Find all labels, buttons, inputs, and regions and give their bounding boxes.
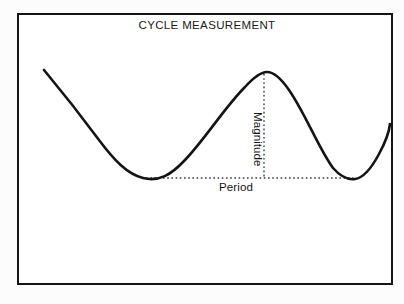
period-axis-label: Period [181, 181, 291, 193]
cycle-measurement-figure: CYCLE MEASUREMENT Magnitude Period [0, 0, 404, 304]
plot-frame: CYCLE MEASUREMENT Magnitude Period [17, 13, 393, 285]
cycle-waveform-curve [44, 70, 390, 179]
magnitude-axis-label: Magnitude [252, 112, 264, 174]
waveform-canvas [19, 15, 395, 287]
